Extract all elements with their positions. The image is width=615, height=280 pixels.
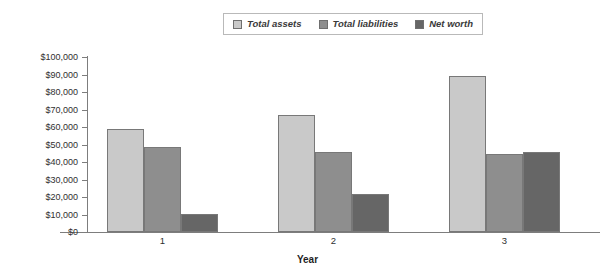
bar[interactable] bbox=[523, 152, 560, 232]
bar[interactable] bbox=[315, 152, 352, 233]
x-axis-line bbox=[60, 232, 600, 233]
y-axis-tick-label: $0 bbox=[68, 228, 78, 237]
y-axis-tick bbox=[82, 162, 87, 163]
y-axis-tick-label: $10,000 bbox=[45, 210, 78, 219]
chart-legend: Total assetsTotal liabilitiesNet worth bbox=[223, 13, 483, 35]
y-axis-tick bbox=[82, 92, 87, 93]
bar[interactable] bbox=[486, 154, 523, 232]
y-axis-tick bbox=[82, 57, 87, 58]
y-axis-tick-label: $80,000 bbox=[45, 88, 78, 97]
y-axis-tick-label: $60,000 bbox=[45, 123, 78, 132]
bar[interactable] bbox=[449, 76, 486, 232]
legend-swatch-icon bbox=[233, 20, 242, 29]
y-axis-tick bbox=[82, 127, 87, 128]
x-axis-tick-label: 3 bbox=[502, 236, 507, 246]
legend-item-label: Total liabilities bbox=[333, 19, 399, 29]
y-axis-tick-label: $40,000 bbox=[45, 158, 78, 167]
plot-area: $0$10,000$20,000$30,000$40,000$50,000$60… bbox=[87, 57, 600, 232]
legend-item[interactable]: Total liabilities bbox=[319, 19, 399, 29]
y-axis-tick bbox=[82, 232, 87, 233]
x-axis-title: Year bbox=[0, 254, 615, 265]
legend-item[interactable]: Net worth bbox=[415, 19, 473, 29]
y-axis-tick bbox=[82, 110, 87, 111]
y-axis-tick-label: $70,000 bbox=[45, 105, 78, 114]
y-axis-tick-label: $30,000 bbox=[45, 175, 78, 184]
bar[interactable] bbox=[352, 194, 389, 232]
y-axis-tick-label: $90,000 bbox=[45, 70, 78, 79]
legend-swatch-icon bbox=[319, 20, 328, 29]
x-axis-tick-label: 2 bbox=[331, 236, 336, 246]
x-axis-tick-label: 1 bbox=[160, 236, 165, 246]
bar[interactable] bbox=[107, 129, 144, 232]
bar[interactable] bbox=[181, 214, 218, 232]
legend-swatch-icon bbox=[415, 20, 424, 29]
y-axis-tick bbox=[82, 197, 87, 198]
y-axis-tick bbox=[82, 75, 87, 76]
y-axis-tick bbox=[82, 215, 87, 216]
y-axis-tick bbox=[82, 145, 87, 146]
legend-item[interactable]: Total assets bbox=[233, 19, 302, 29]
y-axis-tick-label: $50,000 bbox=[45, 140, 78, 149]
y-axis-tick-label: $100,000 bbox=[40, 53, 78, 62]
y-axis-tick-label: $20,000 bbox=[45, 193, 78, 202]
y-axis-tick bbox=[82, 180, 87, 181]
legend-item-label: Total assets bbox=[247, 19, 302, 29]
bar-chart: Total assetsTotal liabilitiesNet worth $… bbox=[0, 0, 615, 280]
bar[interactable] bbox=[278, 115, 315, 232]
bar[interactable] bbox=[144, 147, 181, 232]
legend-item-label: Net worth bbox=[429, 19, 473, 29]
